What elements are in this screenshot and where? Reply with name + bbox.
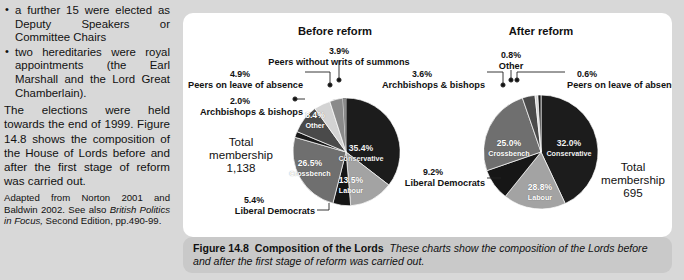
callout-after-other: 0.8% Other [476,50,546,71]
callout-before-peers-on-leave-pct: 4.9% [183,69,303,80]
total-before-line1: Total [229,135,254,148]
list-item: a further 15 were elected as Deputy Spea… [4,4,170,45]
total-after-line1: Total [621,160,646,173]
article-text-column: a further 15 were elected as Deputy Spea… [0,0,176,280]
figure-caption: Figure 14.8 Composition of the Lords The… [183,237,672,273]
callout-before-liberal-democrats-pct: 5.4% [193,195,315,206]
callout-after-liberal-democrats-pct: 9.2% [381,167,485,178]
callout-before-peers-without-writs-pct: 3.9% [235,46,443,57]
figure-panel: Before reform After reform 35.4% [183,13,672,237]
total-after-line2: membership [601,173,665,186]
callout-before-liberal-democrats-name: Liberal Democrats [193,206,315,217]
pie-before-svg [292,98,400,206]
source-note: Adapted from Norton 2001 and Baldwin 200… [4,192,170,226]
total-membership-before: Total membership 1,138 [189,135,293,174]
callout-after-liberal-democrats: 9.2% Liberal Democrats [381,167,485,188]
callout-before-peers-on-leave-name: Peers on leave of absence [183,80,303,91]
callout-before-archbishops-pct: 2.0% [183,96,303,107]
source-note-part2: Second Edition, pp.490-99. [43,215,161,226]
callout-after-peers-on-leave: 0.6% Peers on leave of absence [567,69,672,90]
callout-before-archbishops: 2.0% Archbishops & bishops [183,96,303,117]
callout-before-peers-without-writs-name: Peers without writs of summons [235,57,443,68]
total-after-line3: 695 [623,186,642,199]
callout-before-liberal-democrats: 5.4% Liberal Democrats [193,195,315,216]
callout-after-peers-on-leave-pct: 0.6% [567,69,607,80]
total-before-line2: membership [209,148,273,161]
caption-figure-title: Composition of the Lords [255,242,384,254]
callout-after-peers-on-leave-name: Peers on leave of absence [567,80,672,91]
callout-after-archbishops-pct: 3.6% [359,69,485,80]
callout-before-archbishops-name: Archbishops & bishops [183,107,303,118]
callout-after-other-pct: 0.8% [476,50,546,61]
body-paragraph: The elections were held towards the end … [4,103,170,188]
total-before-line3: 1,138 [226,161,255,174]
callout-before-peers-without-writs: 3.9% Peers without writs of summons [235,46,443,67]
total-membership-after: Total membership 695 [587,160,672,199]
caption-figure-number: Figure 14.8 [193,242,249,254]
callout-after-archbishops: 3.6% Archbishops & bishops [359,69,485,90]
callout-after-other-name: Other [476,61,546,72]
pie-after-svg [484,95,598,209]
bullet-list: a further 15 were elected as Deputy Spea… [4,4,170,100]
pie-chart-before [292,98,400,206]
caption-text: Figure 14.8 Composition of the Lords The… [193,242,662,267]
callout-after-archbishops-name: Archbishops & bishops [359,80,485,91]
pie-chart-after [484,95,598,209]
callout-before-peers-on-leave: 4.9% Peers on leave of absence [183,69,303,90]
callout-after-liberal-democrats-name: Liberal Democrats [381,178,485,189]
chart-title-before: Before reform [275,25,395,37]
list-item: two hereditaries were royal appointments… [4,46,170,100]
chart-title-after: After reform [481,25,601,37]
